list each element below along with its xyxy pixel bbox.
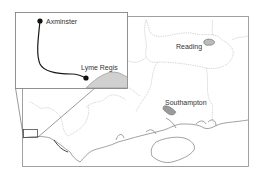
label-axminster: Axminster xyxy=(46,18,78,25)
label-lyme-regis: Lyme Regis xyxy=(81,64,118,72)
reading-urban-area xyxy=(204,39,215,45)
label-southampton: Southampton xyxy=(165,99,207,107)
axminster-marker xyxy=(37,18,42,23)
map-figure: Reading Southampton Axminster Lyme Regis xyxy=(0,0,262,178)
inset-panel: Axminster Lyme Regis xyxy=(16,13,128,89)
lyme-regis-marker xyxy=(83,75,88,80)
label-reading: Reading xyxy=(176,43,202,51)
